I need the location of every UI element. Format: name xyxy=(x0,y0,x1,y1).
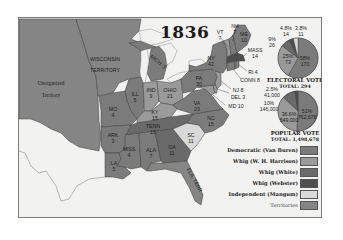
popular-vote-total: TOTAL: 1,498,678 xyxy=(265,137,322,142)
label-miss-votes: 4 xyxy=(128,152,131,158)
label-wisconsin-1: WISCONSIN xyxy=(90,56,120,62)
label-ny-votes: 42 xyxy=(208,61,214,67)
label-pa-votes: 30 xyxy=(196,81,202,87)
label-va-votes: 23 xyxy=(194,106,200,112)
label-md: MD 10 xyxy=(228,103,243,109)
ev-harrison-votes: 73 xyxy=(285,59,291,65)
label-ga-votes: 11 xyxy=(169,150,174,156)
label-nc-votes: 15 xyxy=(208,121,214,127)
popular-vote-caption: POPULAR VOTE TOTAL: 1,498,678 xyxy=(265,131,322,142)
label-nh-votes: 7 xyxy=(234,29,237,35)
label-vt-votes: 7 xyxy=(219,35,222,41)
pv-webster-votes: 41,000 xyxy=(264,92,280,98)
label-mass-votes: 14 xyxy=(252,53,258,59)
label-sc-votes: 11 xyxy=(188,138,193,144)
legend-swatch xyxy=(300,190,318,199)
legend-label: Whig (White) xyxy=(259,169,298,175)
label-ind-votes: 9 xyxy=(150,93,153,99)
ev-indep-votes: 11 xyxy=(298,31,303,37)
legend-label: Territories xyxy=(270,202,298,208)
ev-white-votes: 26 xyxy=(269,42,275,48)
ev-dem-votes: 170 xyxy=(301,61,310,67)
pv-dem-votes: 762,678 xyxy=(298,114,317,120)
label-nj: NJ 8 xyxy=(233,87,244,93)
label-conn: CONN 8 xyxy=(240,77,260,83)
label-me-votes: 10 xyxy=(241,37,247,43)
legend-swatch xyxy=(300,146,318,155)
legend-item-whig-white: Whig (White) xyxy=(212,168,322,179)
label-unorganized-2: Territory xyxy=(42,92,61,98)
label-la-votes: 5 xyxy=(113,166,116,172)
label-ill-votes: 5 xyxy=(134,97,137,103)
ev-webster-votes: 14 xyxy=(283,31,289,37)
label-ky-votes: 15 xyxy=(152,115,158,121)
region-connecticut xyxy=(227,61,235,71)
legend-item-whig-harrison: Whig (W. H. Harrison) xyxy=(212,157,322,168)
legend-swatch xyxy=(300,157,318,166)
legend-label: Whig (Webster) xyxy=(252,180,298,186)
legend-swatch xyxy=(300,168,318,177)
legend-item-democratic: Democratic (Van Buren) xyxy=(212,146,322,157)
pv-white-votes: 146,000 xyxy=(260,106,279,112)
label-ri: RI 4 xyxy=(248,69,258,75)
legend-swatch xyxy=(300,201,318,210)
label-unorganized-1: Unorganized xyxy=(38,80,65,86)
label-del: DEL 3 xyxy=(231,94,245,100)
legend-swatch xyxy=(300,179,318,188)
map-title: 1836 xyxy=(160,22,209,42)
pv-harrison-votes: 549,000 xyxy=(280,117,299,123)
electoral-vote-caption: ELECTORAL VOTE TOTAL: 294 xyxy=(265,78,322,89)
legend-label: Democratic (Van Buren) xyxy=(227,147,298,153)
label-mo-votes: 4 xyxy=(112,112,115,118)
label-tenn-votes: 15 xyxy=(150,129,156,135)
legend-item-territories: Territories xyxy=(212,201,322,212)
label-wisconsin-2: TERRITORY xyxy=(90,67,120,73)
electoral-vote-total: TOTAL: 294 xyxy=(265,84,322,89)
label-ark-votes: 3 xyxy=(112,138,115,144)
label-ala-votes: 7 xyxy=(150,153,153,159)
legend-label: Independent (Mangum) xyxy=(229,191,298,197)
legend-item-whig-webster: Whig (Webster) xyxy=(212,179,322,190)
label-ohio-votes: 21 xyxy=(167,93,173,99)
legend-item-independent: Independent (Mangum) xyxy=(212,190,322,201)
legend-label: Whig (W. H. Harrison) xyxy=(233,158,298,164)
